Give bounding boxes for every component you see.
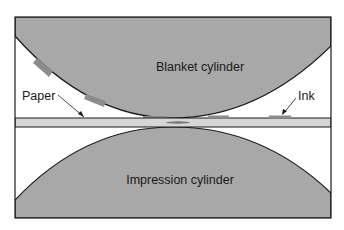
impression-cylinder-label: Impression cylinder bbox=[126, 173, 234, 187]
ink-label: Ink bbox=[298, 89, 315, 103]
blanket-cylinder-label: Blanket cylinder bbox=[156, 60, 244, 74]
nip-contact bbox=[166, 121, 190, 123]
printing-diagram: Blanket cylinder Impression cylinder Pap… bbox=[0, 0, 344, 230]
paper-label: Paper bbox=[22, 89, 55, 103]
ink-on-paper bbox=[269, 116, 291, 119]
ink-on-paper bbox=[208, 116, 229, 119]
